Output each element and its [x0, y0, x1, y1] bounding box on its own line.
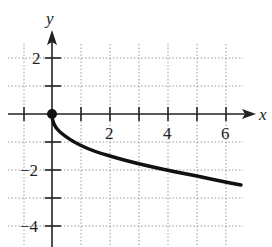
y-tick-neg4: −4	[20, 217, 39, 236]
x-tick-2: 2	[105, 124, 114, 143]
x-tick-4: 4	[163, 124, 172, 143]
y-tick-neg2: −2	[20, 161, 38, 180]
graph: y x 2 4 6 2 −2 −4	[0, 0, 272, 247]
origin-point	[47, 109, 57, 119]
y-axis-label: y	[44, 9, 54, 28]
x-tick-6: 6	[221, 124, 230, 143]
y-tick-2: 2	[32, 49, 41, 68]
function-curve	[52, 114, 241, 185]
x-axis	[8, 107, 248, 121]
y-axis	[45, 40, 61, 247]
x-axis-label: x	[258, 105, 267, 124]
grid	[8, 44, 243, 247]
